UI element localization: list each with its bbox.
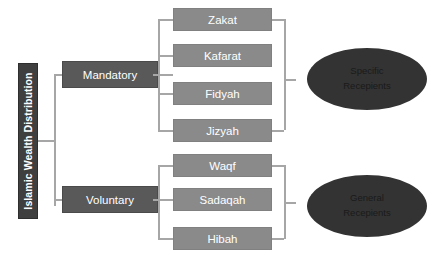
connector-specific-top-arm [272, 19, 284, 21]
item-node-jizyah[interactable]: Jizyah [173, 119, 272, 142]
item-node-sadaqah[interactable]: Sadaqah [173, 188, 272, 211]
connector-general-to-ellipse [284, 202, 296, 204]
connector-general-bottom-arm [272, 238, 284, 240]
item-node-fidyah[interactable]: Fidyah [173, 82, 272, 105]
connector-voluntary-to-waqf [158, 165, 173, 167]
connector-voluntary-spine [158, 165, 160, 239]
recipient-node-specific[interactable]: Specific Recepients [307, 48, 427, 110]
root-node-label: Islamic Wealth Distribution [22, 72, 34, 209]
recipient-node-specific-line2: Recepients [343, 79, 391, 94]
item-node-zakat[interactable]: Zakat [173, 8, 272, 31]
category-node-voluntary-label: Voluntary [86, 194, 134, 206]
connector-mandatory-stem [158, 74, 173, 76]
connector-general-top-arm [272, 165, 284, 167]
recipient-node-general[interactable]: General Recepients [307, 175, 427, 237]
category-node-voluntary[interactable]: Voluntary [62, 186, 158, 213]
connector-specific-bottom-arm [272, 130, 284, 132]
recipient-node-general-line2: Recepients [343, 206, 391, 221]
connector-root-trunk [54, 74, 56, 206]
item-node-waqf[interactable]: Waqf [173, 154, 272, 177]
connector-specific-to-ellipse [284, 79, 296, 81]
item-node-jizyah-label: Jizyah [206, 125, 239, 137]
item-node-kafarat[interactable]: Kafarat [173, 44, 272, 67]
category-node-mandatory[interactable]: Mandatory [62, 61, 158, 88]
item-node-kafarat-label: Kafarat [204, 50, 241, 62]
recipient-node-specific-line1: Specific [350, 64, 383, 79]
connector-mandatory-to-fidyah [158, 93, 173, 95]
item-node-zakat-label: Zakat [208, 14, 237, 26]
connector-voluntary-to-hibah [158, 238, 173, 240]
item-node-hibah[interactable]: Hibah [173, 227, 272, 250]
diagram-canvas: Islamic Wealth Distribution Mandatory Vo… [0, 0, 434, 268]
connector-mandatory-stem-box [153, 74, 159, 76]
connector-specific-spine [284, 19, 286, 130]
item-node-sadaqah-label: Sadaqah [199, 194, 245, 206]
connector-mandatory-to-jizyah [158, 130, 173, 132]
item-node-waqf-label: Waqf [209, 160, 235, 172]
category-node-mandatory-label: Mandatory [83, 69, 137, 81]
connector-mandatory-to-zakat [158, 19, 173, 21]
connector-mandatory-to-kafarat [158, 55, 173, 57]
connector-root-stem [38, 140, 54, 142]
item-node-hibah-label: Hibah [207, 233, 237, 245]
recipient-node-general-line1: General [350, 191, 384, 206]
connector-voluntary-to-sadaqah [158, 199, 173, 201]
item-node-fidyah-label: Fidyah [205, 88, 240, 100]
root-node-islamic-wealth-distribution[interactable]: Islamic Wealth Distribution [18, 63, 38, 219]
